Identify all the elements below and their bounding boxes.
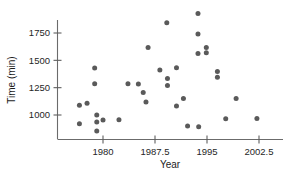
data-point (143, 99, 148, 104)
y-tick-label: 1250 (29, 82, 50, 93)
data-points-group (77, 11, 259, 134)
data-point (185, 123, 190, 128)
data-point (92, 81, 97, 86)
y-tick-label: 1500 (29, 55, 50, 66)
scatter-plot-figure: 1000125015001750 19801987.519952002.5 Ye… (0, 0, 289, 173)
axes-group (58, 20, 284, 140)
data-point (174, 65, 179, 70)
data-point (234, 96, 239, 101)
data-point (116, 117, 121, 122)
data-point (94, 113, 99, 118)
data-point (215, 75, 220, 80)
x-tick-label: 1987.5 (140, 146, 169, 157)
data-point (164, 20, 169, 25)
data-point (101, 117, 106, 122)
x-tick-label: 1995 (196, 146, 217, 157)
plot-canvas: 1000125015001750 19801987.519952002.5 Ye… (0, 0, 289, 173)
data-point (94, 120, 99, 125)
data-point (165, 83, 170, 88)
x-tick-labels: 19801987.519952002.5 (92, 146, 273, 157)
data-point (136, 82, 141, 87)
data-point (196, 124, 201, 129)
data-point (77, 121, 82, 126)
y-axis-title: Time (min) (6, 56, 17, 103)
data-point (223, 116, 228, 121)
x-tick-label: 2002.5 (244, 146, 273, 157)
data-point (195, 51, 200, 56)
data-point (125, 81, 130, 86)
data-point (181, 96, 186, 101)
data-point (215, 69, 220, 74)
data-point (141, 90, 146, 95)
x-axis-title: Year (160, 159, 181, 170)
y-tick-label: 1000 (29, 109, 50, 120)
data-point (94, 129, 99, 134)
data-point (254, 116, 259, 121)
data-point (77, 103, 82, 108)
y-tick-labels: 1000125015001750 (29, 27, 50, 120)
data-point (157, 67, 162, 72)
data-point (195, 32, 200, 37)
data-point (204, 45, 209, 50)
data-point (92, 65, 97, 70)
data-point (146, 45, 151, 50)
data-point (174, 103, 179, 108)
y-tick-label: 1750 (29, 27, 50, 38)
data-point (165, 76, 170, 81)
data-point (204, 50, 209, 55)
data-point (85, 101, 90, 106)
x-tick-label: 1980 (92, 146, 113, 157)
data-point (195, 11, 200, 16)
